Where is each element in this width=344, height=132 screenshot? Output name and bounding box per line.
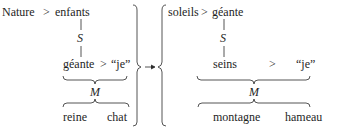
right-top-right: géante bbox=[212, 6, 243, 18]
left-top-left: Nature bbox=[2, 6, 35, 18]
left-bottom-left: reine bbox=[63, 111, 87, 123]
left-middle-op: > bbox=[100, 58, 107, 70]
left-top-op: > bbox=[43, 6, 50, 18]
right-top-left: soleils bbox=[168, 6, 199, 18]
right-middle-left: seins bbox=[213, 58, 237, 70]
right-overbrace bbox=[198, 99, 310, 107]
left-link-label: S bbox=[77, 32, 83, 44]
right-opening-brace bbox=[158, 5, 166, 126]
left-middle-left: géante bbox=[63, 58, 94, 70]
right-middle-right: “je” bbox=[296, 58, 315, 70]
right-brace-label: M bbox=[249, 86, 259, 98]
left-closing-brace bbox=[133, 5, 141, 126]
arrow-head bbox=[151, 65, 155, 69]
left-top-right: enfants bbox=[55, 6, 90, 18]
right-link-label: S bbox=[220, 32, 226, 44]
left-brace-label: M bbox=[90, 86, 100, 98]
left-middle-right: “je” bbox=[111, 58, 130, 70]
right-top-op: > bbox=[201, 6, 208, 18]
left-overbrace bbox=[63, 99, 129, 107]
right-bottom-right: hameau bbox=[285, 111, 322, 123]
right-underbrace bbox=[197, 76, 310, 84]
left-underbrace bbox=[63, 76, 127, 84]
right-middle-op: > bbox=[269, 58, 276, 70]
left-bottom-right: chat bbox=[107, 111, 127, 123]
right-bottom-left: montagne bbox=[213, 111, 260, 123]
